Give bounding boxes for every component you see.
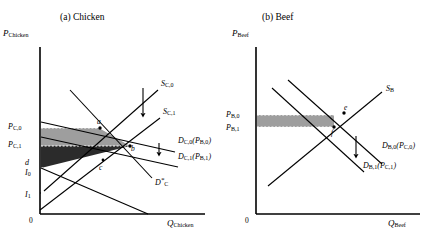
figure-container: (a) Chicken PChicken QChicken 0 PC,0 PC,… <box>0 0 432 238</box>
x-axis-sub: Beef <box>395 222 406 228</box>
curve-arg: (P <box>396 141 404 150</box>
panel-b-shaded-region <box>257 115 334 127</box>
y-axis-sub: Chicken <box>9 32 29 38</box>
panel-a-point-b: b <box>131 144 135 153</box>
curve-arg-end: ) <box>208 136 211 145</box>
panel-b-curve-label-db1: DB,1(PC,1) <box>363 161 396 170</box>
curve-sub: C,1 <box>167 110 176 116</box>
panel-a-shaded-regions <box>41 128 130 168</box>
panel-a-curve-label-dc-star: D*C <box>155 178 168 187</box>
intercept-base: d <box>25 158 29 167</box>
price-sub: C,0 <box>13 125 22 131</box>
panel-a-curve-label-dc0: DC,0(PB,0) <box>178 136 211 145</box>
price-sub: B,1 <box>231 126 240 132</box>
panel-a-price-label-0: PC,0 <box>8 122 21 131</box>
figure-svg <box>0 0 432 238</box>
panel-b-point-e: e <box>344 103 347 112</box>
curve-sub: C,0 <box>165 82 174 88</box>
panel-b-price-label-0: PB,0 <box>226 110 239 119</box>
panel-a-x-axis-label: QChicken <box>167 218 194 228</box>
curve-arg: (P <box>192 136 200 145</box>
panel-a-intercept-label-i0: I0 <box>25 168 31 177</box>
price-sub: B,0 <box>231 113 240 119</box>
panel-a-price-label-1: PC,1 <box>8 140 21 149</box>
intercept-sub: 1 <box>28 193 31 199</box>
price-sub: C,1 <box>13 143 22 149</box>
panel-b-price-label-1: PB,1 <box>226 123 239 132</box>
panel-a-curve-label-sc1: SC,1 <box>163 107 176 116</box>
panel-a-title: (a) Chicken <box>60 12 105 22</box>
x-axis-sub: Chicken <box>174 222 194 228</box>
curve-star: * <box>161 176 165 184</box>
curve-base: D <box>155 178 161 187</box>
curve-arg: (P <box>377 161 385 170</box>
panel-b-axes <box>256 47 420 214</box>
panel-b-curves <box>268 80 382 186</box>
panel-a-point-c: c <box>99 163 102 172</box>
panel-a-curve-label-sc0: SC,0 <box>161 79 174 88</box>
curve-sub: C <box>164 181 168 187</box>
curve-sub: B <box>390 87 394 93</box>
panel-b-point-f: f <box>331 128 333 137</box>
panel-a-intercept-label-i1: I1 <box>25 190 31 199</box>
panel-b-curve-label-sb: SB <box>386 84 394 93</box>
intercept-sub: 0 <box>28 171 31 177</box>
panel-a-intercept-label-d: d <box>25 158 29 167</box>
curve-arg-end: ) <box>208 152 211 161</box>
curve-arg-end: ) <box>393 161 396 170</box>
panel-b-origin-label: 0 <box>245 216 249 225</box>
panel-b-curve-label-db0: DB,0(PC,0) <box>382 141 415 150</box>
panel-b-title: (b) Beef <box>262 12 293 22</box>
panel-b-x-axis-label: QBeef <box>388 218 406 228</box>
panel-b-y-axis-label: PBeef <box>232 28 249 38</box>
y-axis-sub: Beef <box>238 32 249 38</box>
panel-a-curve-label-dc1: DC,1(PB,1) <box>178 152 211 161</box>
panel-a-point-a: a <box>97 117 101 126</box>
curve-arg: (P <box>192 152 200 161</box>
panel-a-origin-label: 0 <box>29 216 33 225</box>
panel-a-y-axis-label: PChicken <box>3 28 29 38</box>
curve-arg-end: ) <box>412 141 415 150</box>
